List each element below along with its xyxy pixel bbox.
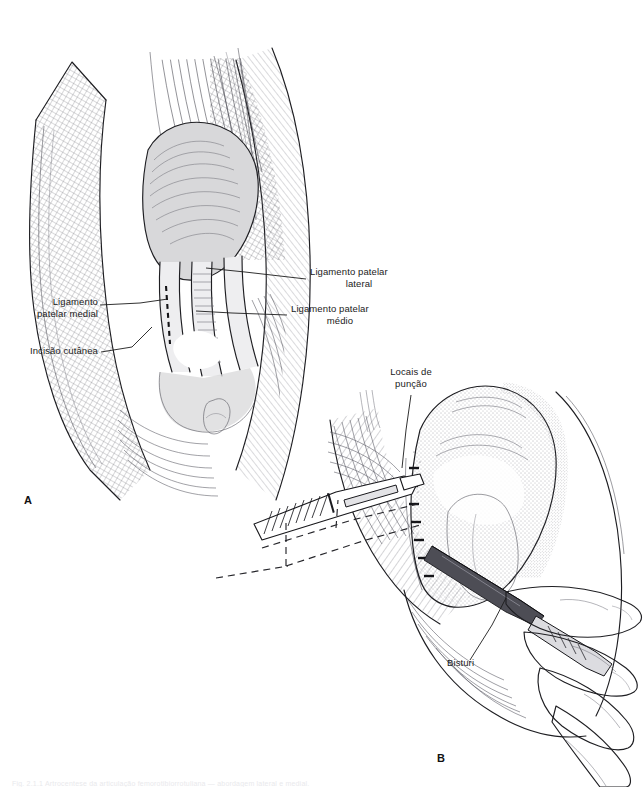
label-locais-de-puncao-line2: punção — [372, 378, 450, 390]
anatomical-figure: Ligamento patelar lateral Ligamento pate… — [0, 0, 644, 787]
label-incisao-cutanea: Incisão cutânea — [0, 345, 98, 357]
label-ligamento-patelar-lateral-line2: lateral — [310, 278, 408, 290]
label-bisturi: Bisturi — [447, 657, 474, 669]
label-ligamento-patelar-lateral: Ligamento patelar — [310, 266, 388, 278]
label-ligamento-patelar-medial-line2: patelar medial — [0, 308, 98, 320]
label-ligamento-patelar-medial: Ligamento — [0, 296, 98, 308]
figure-caption: Fig. 2.1.1 Artrocentese da articulação f… — [12, 780, 309, 787]
leader-locais-de-puncao — [402, 395, 411, 468]
leader-ligamento-patelar-medial — [100, 299, 168, 305]
label-ligamento-patelar-medio: Ligamento patelar — [291, 303, 369, 315]
label-ligamento-patelar-medio-line2: médio — [291, 315, 389, 327]
panel-a-artwork — [30, 42, 311, 500]
panel-letter-a: A — [24, 494, 32, 506]
panel-letter-b: B — [437, 752, 445, 764]
illustration-canvas — [0, 0, 644, 787]
label-locais-de-puncao: Locais de — [372, 366, 450, 378]
